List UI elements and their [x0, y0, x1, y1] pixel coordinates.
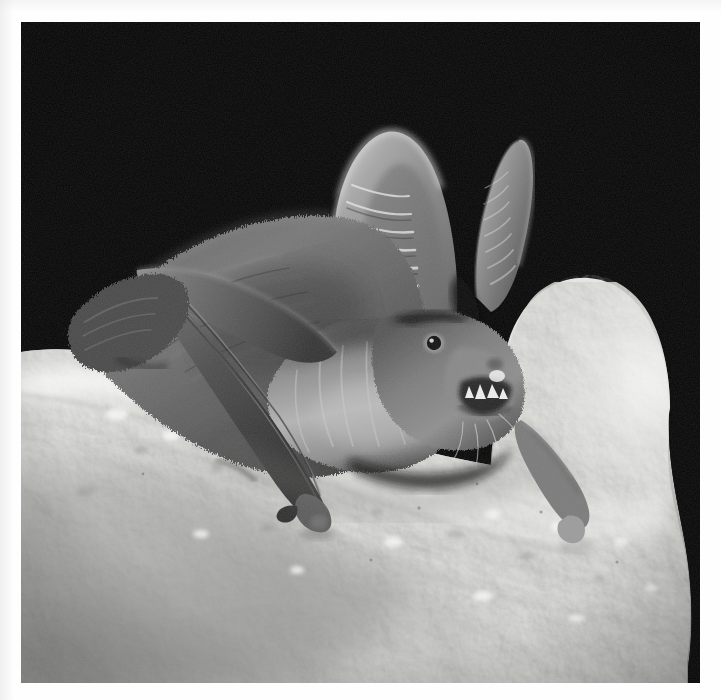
photo-canvas	[21, 22, 700, 683]
photograph	[21, 22, 700, 683]
film-grain	[21, 22, 700, 683]
photo-mount	[0, 0, 721, 700]
